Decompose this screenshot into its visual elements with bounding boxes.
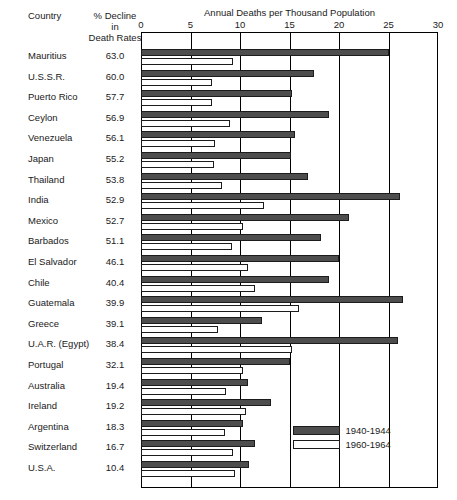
- bar-1960-1964: [141, 285, 255, 292]
- bar-1960-1964: [141, 305, 299, 312]
- legend-swatch-1940-1944: [293, 426, 340, 435]
- bar-1940-1944: [141, 296, 403, 303]
- bar-1940-1944: [141, 399, 271, 406]
- percent-decline-value: 56.9: [84, 112, 146, 123]
- percent-decline-value: 32.1: [84, 359, 146, 370]
- bar-1960-1964: [141, 58, 233, 65]
- bar-1960-1964: [141, 367, 243, 374]
- country-label: Portugal: [28, 359, 63, 370]
- bar-1960-1964: [141, 182, 222, 189]
- percent-decline-value: 40.4: [84, 277, 146, 288]
- column-header-decline-line3: Death Rates: [84, 32, 146, 43]
- percent-decline-value: 63.0: [84, 50, 146, 61]
- x-tick-label-15: 15: [284, 19, 295, 30]
- bar-1940-1944: [141, 234, 321, 241]
- bar-1960-1964: [141, 346, 292, 353]
- axis-title: Annual Deaths per Thousand Population: [141, 7, 438, 18]
- country-label: Japan: [28, 153, 54, 164]
- percent-decline-value: 56.1: [84, 132, 146, 143]
- bar-1940-1944: [141, 461, 249, 468]
- gridline-20: [339, 33, 340, 487]
- legend-label: 1960-1964: [345, 439, 390, 450]
- legend-label: 1940-1944: [345, 425, 390, 436]
- country-label: Ceylon: [28, 112, 58, 123]
- bar-1940-1944: [141, 131, 295, 138]
- bar-1940-1944: [141, 111, 329, 118]
- country-label: Argentina: [28, 421, 69, 432]
- percent-decline-value: 39.1: [84, 318, 146, 329]
- percent-decline-value: 55.2: [84, 153, 146, 164]
- column-header-percent-decline: % Decline in Death Rates: [84, 10, 146, 43]
- country-label: U.S.S.R.: [28, 71, 65, 82]
- percent-decline-value: 51.1: [84, 235, 146, 246]
- country-label: Guatemala: [28, 297, 74, 308]
- bar-1940-1944: [141, 358, 290, 365]
- bar-1960-1964: [141, 140, 215, 147]
- percent-decline-value: 18.3: [84, 421, 146, 432]
- bar-1960-1964: [141, 326, 218, 333]
- bar-1940-1944: [141, 173, 308, 180]
- percent-decline-value: 53.8: [84, 174, 146, 185]
- country-label: Ireland: [28, 400, 57, 411]
- bar-1960-1964: [141, 161, 214, 168]
- x-tick-label-20: 20: [334, 19, 345, 30]
- country-label: El Salvador: [28, 256, 77, 267]
- percent-decline-value: 38.4: [84, 338, 146, 349]
- x-tick-label-0: 0: [138, 19, 143, 30]
- percent-decline-value: 19.4: [84, 380, 146, 391]
- column-header-country: Country: [28, 10, 61, 21]
- percent-decline-value: 46.1: [84, 256, 146, 267]
- x-tick-label-10: 10: [235, 19, 246, 30]
- bar-1960-1964: [141, 429, 225, 436]
- bar-1940-1944: [141, 317, 262, 324]
- country-label: U.A.R. (Egypt): [28, 338, 89, 349]
- bar-1960-1964: [141, 388, 226, 395]
- bar-1940-1944: [141, 379, 248, 386]
- bar-1960-1964: [141, 449, 233, 456]
- percent-decline-value: 39.9: [84, 297, 146, 308]
- country-label: Puerto Rico: [28, 91, 78, 102]
- bar-1940-1944: [141, 214, 349, 221]
- bar-1940-1944: [141, 193, 400, 200]
- bar-1960-1964: [141, 79, 212, 86]
- percent-decline-value: 10.4: [84, 462, 146, 473]
- country-label: Chile: [28, 277, 50, 288]
- country-label: Mauritius: [28, 50, 67, 61]
- country-label: Mexico: [28, 215, 58, 226]
- bar-1960-1964: [141, 408, 246, 415]
- country-label: Venezuela: [28, 132, 72, 143]
- country-label: Thailand: [28, 174, 64, 185]
- country-label: Greece: [28, 318, 59, 329]
- column-header-decline-line1: % Decline: [84, 10, 146, 21]
- percent-decline-value: 52.9: [84, 194, 146, 205]
- x-tick-label-5: 5: [188, 19, 193, 30]
- country-label: Australia: [28, 380, 65, 391]
- bar-1940-1944: [141, 255, 339, 262]
- bar-1960-1964: [141, 264, 248, 271]
- bar-1940-1944: [141, 49, 389, 56]
- country-label: Switzerland: [28, 441, 77, 452]
- gridline-25: [389, 33, 390, 487]
- bar-chart: Country % Decline in Death Rates Annual …: [0, 0, 457, 500]
- country-label: Barbados: [28, 235, 69, 246]
- percent-decline-value: 52.7: [84, 215, 146, 226]
- bar-1940-1944: [141, 90, 292, 97]
- percent-decline-value: 16.7: [84, 441, 146, 452]
- x-tick-label-30: 30: [433, 19, 444, 30]
- x-tick-label-25: 25: [383, 19, 394, 30]
- bar-1940-1944: [141, 337, 398, 344]
- bar-1960-1964: [141, 470, 235, 477]
- percent-decline-value: 19.2: [84, 400, 146, 411]
- column-header-decline-line2: in: [84, 21, 146, 32]
- percent-decline-value: 57.7: [84, 91, 146, 102]
- percent-decline-value: 60.0: [84, 71, 146, 82]
- bar-1960-1964: [141, 243, 232, 250]
- bar-1960-1964: [141, 202, 264, 209]
- bar-1960-1964: [141, 120, 230, 127]
- country-label: U.S.A.: [28, 462, 55, 473]
- bar-1960-1964: [141, 99, 212, 106]
- bar-1940-1944: [141, 440, 255, 447]
- bar-1940-1944: [141, 152, 291, 159]
- bar-1940-1944: [141, 420, 243, 427]
- country-label: India: [28, 194, 49, 205]
